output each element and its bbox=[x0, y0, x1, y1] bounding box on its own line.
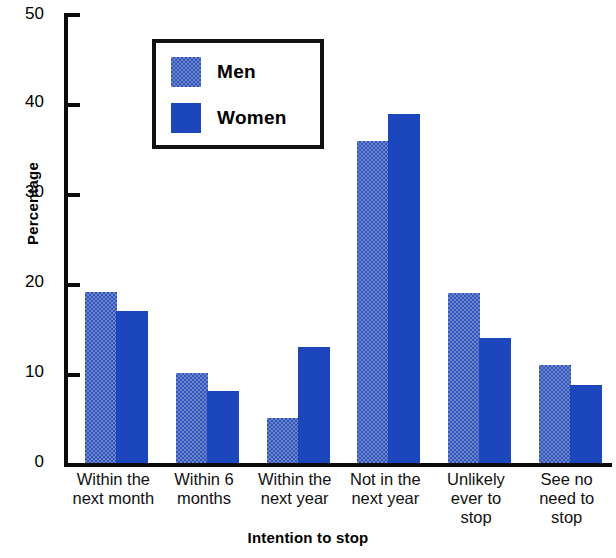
bar-women bbox=[479, 338, 511, 463]
bar-men bbox=[266, 418, 299, 463]
y-tick-label-10: 10 bbox=[4, 363, 44, 380]
x-axis-line bbox=[64, 463, 612, 467]
legend-swatch-men-icon bbox=[171, 57, 201, 87]
bar-men bbox=[175, 373, 208, 463]
legend-swatch-women-icon bbox=[171, 103, 201, 133]
bar-group bbox=[84, 13, 148, 463]
legend-item-women: Women bbox=[171, 103, 287, 133]
plot-area bbox=[68, 13, 612, 463]
bar-women bbox=[298, 347, 330, 463]
bar-men bbox=[356, 141, 389, 463]
y-tick-label-30: 30 bbox=[4, 183, 44, 200]
legend-label-women: Women bbox=[217, 107, 287, 129]
y-tick-label-50: 50 bbox=[4, 5, 44, 22]
bar-men bbox=[447, 293, 480, 463]
bar-women bbox=[388, 114, 420, 463]
y-tick-label-20: 20 bbox=[4, 273, 44, 290]
bar-women bbox=[116, 311, 148, 463]
y-tick-label-40: 40 bbox=[4, 93, 44, 110]
bar-group bbox=[447, 13, 511, 463]
bar-men bbox=[84, 292, 117, 463]
bar-women bbox=[207, 391, 239, 463]
bar-men bbox=[538, 365, 571, 463]
legend-label-men: Men bbox=[217, 61, 256, 83]
legend-item-men: Men bbox=[171, 57, 256, 87]
bar-chart: Percentage 50 40 30 20 10 0 Men Women Wi… bbox=[0, 0, 616, 558]
x-axis-title: Intention to stop bbox=[0, 529, 616, 546]
legend: Men Women bbox=[152, 39, 324, 149]
bar-women bbox=[570, 385, 602, 463]
y-axis-title: Percentage bbox=[24, 124, 41, 284]
y-tick-label-0: 0 bbox=[4, 453, 44, 470]
x-axis-label: See noneed tostop bbox=[513, 470, 616, 527]
bar-group bbox=[538, 13, 602, 463]
bar-group bbox=[356, 13, 420, 463]
